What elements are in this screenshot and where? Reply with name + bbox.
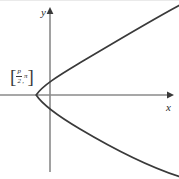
parabola-curve-group — [36, 6, 179, 177]
fraction-numerator: p — [17, 68, 23, 75]
bracket-right-symbol: ] — [28, 67, 34, 86]
axes-group — [0, 7, 174, 172]
figure-canvas: y x — [0, 0, 179, 179]
parabola-curve — [36, 6, 179, 177]
vertex-annotation: [ p 2 , π ] — [10, 67, 34, 86]
y-axis-label: y — [40, 6, 46, 18]
fraction-denominator: 2 — [17, 78, 23, 85]
x-axis-label: x — [165, 101, 171, 113]
parabola-figure: y x [ p 2 , π ] — [0, 0, 179, 179]
y-axis-arrowhead — [47, 7, 54, 14]
x-axis-arrowhead — [167, 92, 174, 99]
